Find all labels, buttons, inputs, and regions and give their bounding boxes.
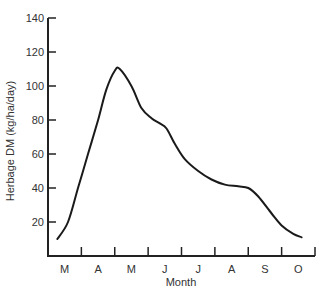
y-axis-title: Herbage DM (kg/ha/day) xyxy=(4,81,16,201)
x-tick-label: J xyxy=(162,263,168,275)
x-tick-label: M xyxy=(60,263,69,275)
x-axis-title: Month xyxy=(166,276,197,288)
x-axis: MAMJJASO xyxy=(47,247,315,275)
x-tick-label: A xyxy=(94,263,102,275)
herbage-growth-line xyxy=(57,68,301,239)
y-tick-label: 100 xyxy=(26,80,44,92)
x-tick-label: O xyxy=(294,263,303,275)
y-tick-label: 120 xyxy=(26,46,44,58)
y-axis: 20406080100120140 xyxy=(26,12,56,256)
y-tick-label: 20 xyxy=(32,216,44,228)
y-tick-label: 60 xyxy=(32,148,44,160)
line-chart: 20406080100120140 MAMJJASO Herbage DM (k… xyxy=(0,0,327,295)
y-tick-label: 40 xyxy=(32,182,44,194)
x-tick-label: J xyxy=(195,263,201,275)
x-tick-label: S xyxy=(261,263,268,275)
y-tick-label: 140 xyxy=(26,12,44,24)
y-tick-label: 80 xyxy=(32,114,44,126)
x-tick-label: M xyxy=(127,263,136,275)
x-tick-label: A xyxy=(228,263,236,275)
